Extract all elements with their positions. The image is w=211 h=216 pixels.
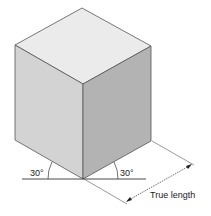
isometric-cube-diagram: 30° 30° True length (0, 0, 211, 216)
arrowhead-bottom (126, 197, 132, 202)
true-length-label: True length (150, 190, 195, 200)
extension-line-right (152, 141, 194, 165)
left-angle-label: 30° (30, 168, 44, 178)
extension-line-bottom (84, 179, 127, 204)
arrowhead-top (186, 164, 192, 169)
right-angle-label: 30° (120, 168, 134, 178)
right-angle-arc (114, 162, 118, 179)
left-angle-arc (48, 162, 52, 179)
